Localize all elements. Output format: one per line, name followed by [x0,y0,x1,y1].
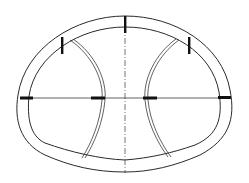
right-wall-joint-marker [218,96,231,99]
left-shoulder-joint-marker [61,37,63,54]
outer-lining-outline [17,16,232,172]
right-shoulder-joint-marker [188,37,190,54]
left-wall-joint-marker [20,97,33,100]
tunnel-cross-section-diagram [0,0,249,183]
crown-joint-marker [124,16,126,33]
left-partition-joint-marker [91,97,105,100]
right-partition-joint-marker [143,97,157,100]
inner-lining-outline [28,27,220,160]
